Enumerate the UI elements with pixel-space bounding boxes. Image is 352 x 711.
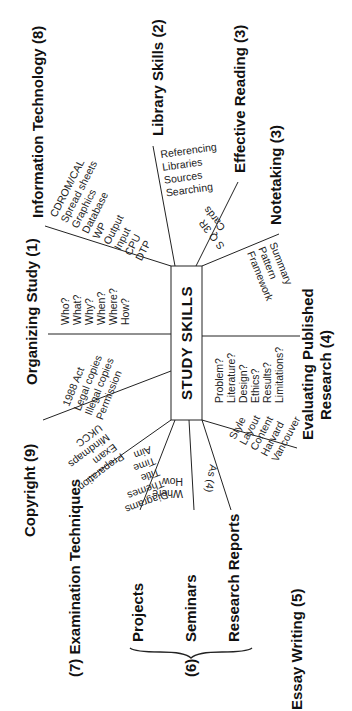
leaf-item: Ethics? [249, 368, 261, 403]
heading-library-skills: Library Skills (2) [149, 19, 166, 136]
organizing-items: Who? What? Why? When? Where? How? [59, 288, 131, 325]
heading-evaluating-2: Research (4) [317, 330, 334, 420]
leaf-item: Where? [107, 288, 119, 325]
it-items: CDROM/CAL Spread sheets Graphics Databas… [47, 153, 174, 262]
heading-evaluating-1: Evaluating Published [299, 288, 316, 440]
leaf-item: How [162, 476, 183, 488]
leaf-item: Literature? [225, 353, 237, 403]
group-number: (6) [182, 659, 199, 677]
leaf-item: Limitations? [273, 347, 285, 403]
leaf-item: Where [152, 488, 183, 500]
center-label: STUDY SKILLS [178, 286, 195, 400]
leaf-item: When? [95, 292, 107, 325]
notetaking-items: Framework Pattern Summary [245, 240, 298, 303]
reading-items: S Q 3R Cards [191, 204, 236, 252]
leaf-item: How? [119, 298, 131, 325]
study-skills-mindmap: STUDY SKILLS Information Technology (8) … [0, 0, 352, 711]
leaf-item: What? [71, 294, 83, 325]
leaf-item: Why? [83, 298, 95, 325]
heading-examination-techniques: (7) Examination Techniques [66, 479, 83, 677]
leaf-item: Problem? [213, 358, 225, 403]
leaf-item: Who? [59, 297, 71, 325]
heading-information-technology: Information Technology (8) [29, 26, 46, 218]
branch-line-seminars [189, 420, 194, 510]
heading-seminars: Seminars [182, 574, 199, 642]
heading-research-reports: Research Reports [225, 514, 242, 642]
reports-items: As (4) [203, 464, 220, 494]
leaf-item: Design? [237, 364, 249, 403]
leaf-item: As (4) [203, 464, 220, 494]
heading-effective-reading: Effective Reading (3) [231, 25, 248, 173]
heading-notetaking: Notetaking (3) [267, 125, 284, 225]
heading-projects: Projects [129, 583, 146, 642]
heading-copyright: Copyright (9) [21, 444, 38, 537]
library-items: Referencing Libraries Sources Searching [160, 140, 223, 198]
evaluating-items: Problem? Literature? Design? Ethics? Res… [213, 347, 285, 403]
heading-organizing-study: Organizing Study (1) [23, 238, 40, 385]
group-brace [130, 648, 252, 658]
leaf-item: Results? [261, 362, 273, 403]
heading-essay-writing: Essay Writing (5) [288, 589, 305, 710]
